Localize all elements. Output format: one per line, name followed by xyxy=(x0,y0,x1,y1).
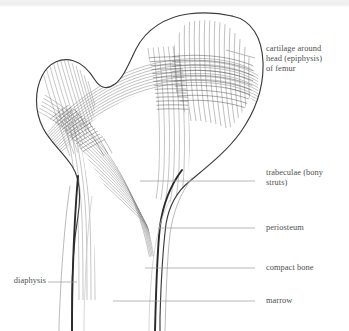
label-cartilage: cartilage around head (epiphysis) of fem… xyxy=(266,44,348,75)
bone-outline-lateral xyxy=(160,16,263,331)
periosteum-lateral xyxy=(165,178,192,331)
trabeculae-dense-overlap xyxy=(62,88,132,158)
label-marrow: marrow xyxy=(266,296,348,306)
trabeculae-medial-band xyxy=(26,86,176,308)
label-periosteum: periosteum xyxy=(266,223,348,233)
periosteum-medial xyxy=(59,186,70,331)
trabeculae-lateral-column xyxy=(146,30,195,226)
label-compact-bone: compact bone xyxy=(266,263,348,273)
bone-outline-medial xyxy=(37,13,233,331)
leader-line-cartilage xyxy=(226,50,255,58)
label-diaphysis: diaphysis xyxy=(0,276,46,286)
label-trabeculae: trabeculae (bony struts) xyxy=(266,168,348,188)
compact-bone-medial xyxy=(72,176,78,331)
femur-diagram: cartilage around head (epiphysis) of fem… xyxy=(0,0,349,331)
trabeculae-arc-band xyxy=(30,58,268,213)
scan-artifact-strip xyxy=(0,0,349,7)
